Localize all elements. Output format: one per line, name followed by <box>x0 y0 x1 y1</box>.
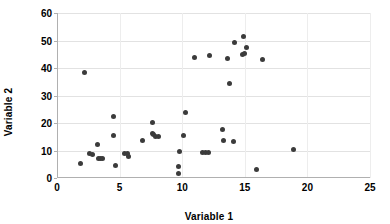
y-tick-mark <box>54 68 57 69</box>
y-tick-mark <box>54 96 57 97</box>
data-point <box>260 57 265 62</box>
y-tick-mark <box>54 41 57 42</box>
data-point <box>220 127 225 132</box>
data-point <box>111 133 116 138</box>
data-point <box>82 70 87 75</box>
gridline-v <box>307 13 308 178</box>
y-tick-mark <box>54 151 57 152</box>
data-point <box>156 134 161 139</box>
y-tick-mark <box>54 123 57 124</box>
data-point <box>221 138 226 143</box>
data-point <box>242 51 247 56</box>
data-point <box>207 53 212 58</box>
data-point <box>95 142 100 147</box>
gridline-h <box>57 123 370 124</box>
y-tick-label: 30 <box>41 90 52 101</box>
data-point <box>126 154 131 159</box>
x-axis-line <box>57 177 370 178</box>
x-tick-label: 10 <box>177 182 188 193</box>
data-point <box>241 34 246 39</box>
data-point <box>232 40 237 45</box>
y-axis-line <box>57 13 58 178</box>
x-tick-label: 25 <box>364 182 375 193</box>
y-tick-label: 50 <box>41 35 52 46</box>
x-tick-label: 15 <box>239 182 250 193</box>
gridline-h <box>57 41 370 42</box>
data-point <box>244 45 249 50</box>
data-point <box>227 81 232 86</box>
gridline-v <box>182 13 183 178</box>
y-tick-label: 20 <box>41 118 52 129</box>
data-point <box>254 167 259 172</box>
gridline-h <box>57 96 370 97</box>
data-point <box>78 161 83 166</box>
x-tick-label: 5 <box>117 182 123 193</box>
data-point <box>206 150 211 155</box>
data-point <box>231 139 236 144</box>
data-point <box>111 114 116 119</box>
y-tick-label: 40 <box>41 63 52 74</box>
gridline-h <box>57 68 370 69</box>
plot-area: 0102030405060 0510152025 <box>57 13 370 178</box>
gridline-h <box>57 13 370 14</box>
data-point <box>140 138 145 143</box>
y-tick-mark <box>54 178 57 179</box>
y-axis-title: Variable 2 <box>3 72 14 152</box>
x-tick-label: 0 <box>54 182 60 193</box>
data-point <box>225 56 230 61</box>
x-tick-label: 20 <box>302 182 313 193</box>
data-point <box>181 133 186 138</box>
gridline-h <box>57 151 370 152</box>
y-tick-label: 0 <box>46 173 52 184</box>
data-point <box>291 147 296 152</box>
scatter-chart: 0102030405060 0510152025 Variable 1 Vari… <box>0 0 390 224</box>
data-point <box>176 164 181 169</box>
data-point <box>100 156 105 161</box>
data-point <box>150 120 155 125</box>
gridline-v <box>120 13 121 178</box>
y-tick-label: 60 <box>41 8 52 19</box>
data-point <box>113 163 118 168</box>
data-point <box>90 152 95 157</box>
gridline-v <box>370 13 371 178</box>
data-point <box>183 110 188 115</box>
x-axis-title: Variable 1 <box>0 211 390 222</box>
y-tick-label: 10 <box>41 145 52 156</box>
y-tick-mark <box>54 13 57 14</box>
data-point <box>176 171 181 176</box>
data-point <box>192 55 197 60</box>
